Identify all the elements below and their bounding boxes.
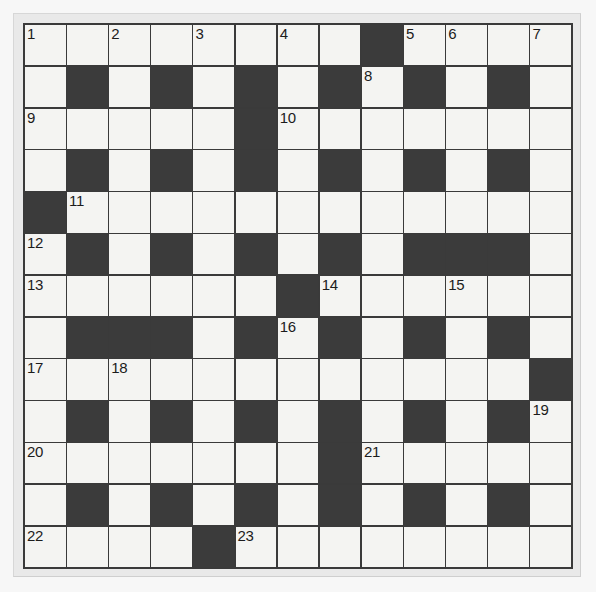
letter-cell[interactable] xyxy=(193,234,234,274)
letter-cell[interactable] xyxy=(362,109,403,149)
letter-cell[interactable]: 6 xyxy=(446,25,487,65)
letter-cell[interactable] xyxy=(446,401,487,441)
letter-cell[interactable] xyxy=(236,443,277,483)
letter-cell[interactable] xyxy=(151,109,192,149)
letter-cell[interactable]: 12 xyxy=(25,234,66,274)
letter-cell[interactable] xyxy=(404,359,445,399)
letter-cell[interactable] xyxy=(446,192,487,232)
letter-cell[interactable] xyxy=(362,276,403,316)
letter-cell[interactable] xyxy=(109,401,150,441)
letter-cell[interactable] xyxy=(25,67,66,107)
letter-cell[interactable] xyxy=(278,234,319,274)
letter-cell[interactable] xyxy=(151,192,192,232)
letter-cell[interactable] xyxy=(320,109,361,149)
letter-cell[interactable] xyxy=(193,359,234,399)
letter-cell[interactable] xyxy=(446,485,487,525)
letter-cell[interactable] xyxy=(193,276,234,316)
letter-cell[interactable] xyxy=(236,276,277,316)
letter-cell[interactable] xyxy=(446,359,487,399)
letter-cell[interactable] xyxy=(446,443,487,483)
letter-cell[interactable]: 8 xyxy=(362,67,403,107)
letter-cell[interactable] xyxy=(362,234,403,274)
letter-cell[interactable] xyxy=(193,67,234,107)
letter-cell[interactable] xyxy=(530,276,571,316)
letter-cell[interactable] xyxy=(446,150,487,190)
letter-cell[interactable] xyxy=(446,318,487,358)
letter-cell[interactable] xyxy=(278,192,319,232)
letter-cell[interactable] xyxy=(404,527,445,567)
letter-cell[interactable]: 11 xyxy=(67,192,108,232)
letter-cell[interactable] xyxy=(530,318,571,358)
letter-cell[interactable] xyxy=(488,359,529,399)
letter-cell[interactable] xyxy=(530,443,571,483)
letter-cell[interactable] xyxy=(488,109,529,149)
letter-cell[interactable] xyxy=(446,109,487,149)
letter-cell[interactable] xyxy=(362,485,403,525)
letter-cell[interactable] xyxy=(278,401,319,441)
letter-cell[interactable] xyxy=(278,443,319,483)
letter-cell[interactable]: 21 xyxy=(362,443,403,483)
letter-cell[interactable] xyxy=(236,25,277,65)
letter-cell[interactable] xyxy=(530,109,571,149)
letter-cell[interactable] xyxy=(362,359,403,399)
letter-cell[interactable] xyxy=(404,192,445,232)
letter-cell[interactable] xyxy=(362,318,403,358)
letter-cell[interactable] xyxy=(109,192,150,232)
letter-cell[interactable] xyxy=(193,150,234,190)
letter-cell[interactable] xyxy=(236,359,277,399)
letter-cell[interactable] xyxy=(530,150,571,190)
letter-cell[interactable]: 13 xyxy=(25,276,66,316)
letter-cell[interactable] xyxy=(320,192,361,232)
letter-cell[interactable] xyxy=(151,25,192,65)
letter-cell[interactable] xyxy=(109,443,150,483)
letter-cell[interactable] xyxy=(193,192,234,232)
letter-cell[interactable] xyxy=(362,527,403,567)
letter-cell[interactable]: 22 xyxy=(25,527,66,567)
letter-cell[interactable] xyxy=(404,109,445,149)
letter-cell[interactable] xyxy=(151,276,192,316)
letter-cell[interactable] xyxy=(278,527,319,567)
letter-cell[interactable]: 1 xyxy=(25,25,66,65)
letter-cell[interactable] xyxy=(278,67,319,107)
letter-cell[interactable]: 14 xyxy=(320,276,361,316)
letter-cell[interactable] xyxy=(109,67,150,107)
letter-cell[interactable] xyxy=(67,527,108,567)
letter-cell[interactable]: 17 xyxy=(25,359,66,399)
letter-cell[interactable] xyxy=(320,527,361,567)
letter-cell[interactable] xyxy=(109,234,150,274)
letter-cell[interactable]: 4 xyxy=(278,25,319,65)
letter-cell[interactable] xyxy=(109,150,150,190)
letter-cell[interactable] xyxy=(530,192,571,232)
letter-cell[interactable]: 20 xyxy=(25,443,66,483)
letter-cell[interactable] xyxy=(530,234,571,274)
letter-cell[interactable]: 5 xyxy=(404,25,445,65)
letter-cell[interactable] xyxy=(530,527,571,567)
letter-cell[interactable] xyxy=(67,25,108,65)
letter-cell[interactable] xyxy=(67,443,108,483)
letter-cell[interactable] xyxy=(320,359,361,399)
crossword-grid[interactable]: 1234567891011121314151617181920212223 xyxy=(23,23,573,569)
letter-cell[interactable]: 10 xyxy=(278,109,319,149)
letter-cell[interactable] xyxy=(193,485,234,525)
letter-cell[interactable]: 23 xyxy=(236,527,277,567)
letter-cell[interactable] xyxy=(67,276,108,316)
letter-cell[interactable] xyxy=(362,192,403,232)
letter-cell[interactable] xyxy=(193,318,234,358)
letter-cell[interactable] xyxy=(109,485,150,525)
letter-cell[interactable] xyxy=(193,443,234,483)
letter-cell[interactable] xyxy=(278,485,319,525)
letter-cell[interactable]: 19 xyxy=(530,401,571,441)
letter-cell[interactable]: 2 xyxy=(109,25,150,65)
letter-cell[interactable] xyxy=(25,485,66,525)
letter-cell[interactable] xyxy=(193,109,234,149)
letter-cell[interactable] xyxy=(193,401,234,441)
letter-cell[interactable] xyxy=(488,192,529,232)
letter-cell[interactable]: 16 xyxy=(278,318,319,358)
letter-cell[interactable]: 3 xyxy=(193,25,234,65)
letter-cell[interactable] xyxy=(25,401,66,441)
letter-cell[interactable] xyxy=(67,109,108,149)
letter-cell[interactable] xyxy=(151,527,192,567)
letter-cell[interactable] xyxy=(25,318,66,358)
letter-cell[interactable]: 7 xyxy=(530,25,571,65)
letter-cell[interactable] xyxy=(236,192,277,232)
